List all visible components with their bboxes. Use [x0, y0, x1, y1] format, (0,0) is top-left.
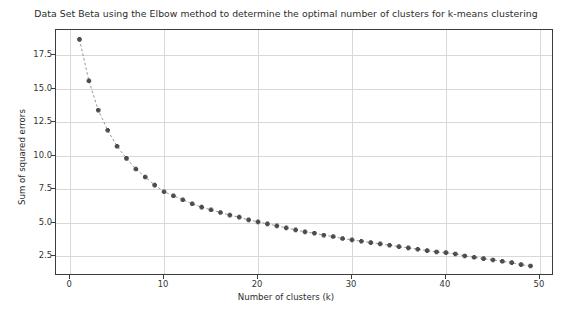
data-point-marker	[453, 252, 458, 257]
marker-glyph	[181, 197, 186, 202]
data-point-marker	[293, 228, 298, 233]
marker-glyph	[500, 259, 505, 264]
data-point-marker	[256, 220, 261, 225]
y-tick-label: 17.5	[0, 49, 52, 59]
data-point-marker	[444, 250, 449, 255]
data-point-marker	[397, 244, 402, 249]
x-tick-label: 20	[252, 279, 263, 289]
data-point-marker	[209, 208, 214, 213]
marker-glyph	[359, 239, 364, 244]
data-point-marker	[331, 234, 336, 239]
data-point-marker	[312, 231, 317, 236]
data-point-marker	[350, 238, 355, 243]
marker-glyph	[190, 202, 195, 207]
chart-title: Data Set Beta using the Elbow method to …	[0, 8, 572, 19]
data-point-marker	[519, 262, 524, 267]
marker-glyph	[434, 250, 439, 255]
data-point-marker	[509, 260, 514, 265]
data-point-marker	[321, 233, 326, 238]
marker-glyph	[246, 218, 251, 223]
data-point-marker	[105, 128, 110, 133]
marker-glyph	[350, 238, 355, 243]
data-point-marker	[415, 247, 420, 252]
x-axis-label: Number of clusters (k)	[0, 292, 572, 302]
data-point-marker	[462, 254, 467, 259]
marker-glyph	[237, 215, 242, 220]
marker-glyph	[321, 233, 326, 238]
chart-figure: Data Set Beta using the Elbow method to …	[0, 0, 572, 312]
marker-glyph	[425, 248, 430, 253]
y-tick-label: 2.5	[0, 250, 52, 260]
data-point-marker	[340, 236, 345, 241]
marker-glyph	[265, 222, 270, 227]
x-tick-label: 40	[440, 279, 451, 289]
data-point-marker	[359, 239, 364, 244]
marker-glyph	[284, 226, 289, 231]
marker-glyph	[228, 213, 233, 218]
data-point-marker	[275, 224, 280, 229]
marker-glyph	[209, 208, 214, 213]
data-point-marker	[406, 246, 411, 251]
data-point-marker	[181, 197, 186, 202]
data-point-marker	[481, 256, 486, 261]
data-point-marker	[425, 248, 430, 253]
marker-glyph	[397, 244, 402, 249]
data-point-marker	[434, 250, 439, 255]
marker-glyph	[462, 254, 467, 259]
data-point-marker	[246, 218, 251, 223]
marker-glyph	[171, 193, 176, 198]
marker-glyph	[87, 79, 92, 84]
marker-glyph	[472, 255, 477, 260]
data-point-marker	[378, 242, 383, 247]
marker-glyph	[415, 247, 420, 252]
marker-glyph	[199, 205, 204, 210]
data-point-marker	[218, 210, 223, 215]
data-point-marker	[190, 202, 195, 207]
data-point-marker	[265, 222, 270, 227]
data-point-marker	[228, 213, 233, 218]
marker-glyph	[444, 250, 449, 255]
data-point-marker	[472, 255, 477, 260]
marker-glyph	[331, 234, 336, 239]
marker-glyph	[453, 252, 458, 257]
plot-area	[55, 29, 553, 275]
data-point-marker	[237, 215, 242, 220]
x-tick-label: 30	[346, 279, 357, 289]
marker-glyph	[378, 242, 383, 247]
data-point-marker	[368, 240, 373, 245]
marker-glyph	[312, 231, 317, 236]
data-point-marker	[500, 259, 505, 264]
marker-glyph	[481, 256, 486, 261]
y-axis-label: Sum of squared errors	[17, 87, 27, 227]
series-layer	[56, 30, 552, 274]
marker-glyph	[387, 243, 392, 248]
marker-glyph	[528, 264, 533, 269]
data-point-marker	[528, 264, 533, 269]
data-point-marker	[87, 79, 92, 84]
marker-glyph	[340, 236, 345, 241]
data-point-marker	[284, 226, 289, 231]
marker-glyph	[509, 260, 514, 265]
x-tick-label: 0	[66, 279, 71, 289]
data-point-marker	[77, 37, 82, 42]
data-point-marker	[491, 258, 496, 263]
marker-glyph	[303, 230, 308, 235]
data-point-marker	[96, 108, 101, 113]
data-point-marker	[171, 193, 176, 198]
marker-glyph	[96, 108, 101, 113]
data-point-marker	[303, 230, 308, 235]
marker-glyph	[275, 224, 280, 229]
marker-glyph	[77, 37, 82, 42]
marker-glyph	[293, 228, 298, 233]
marker-glyph	[368, 240, 373, 245]
marker-glyph	[519, 262, 524, 267]
x-tick-label: 50	[534, 279, 545, 289]
x-tick-label: 10	[158, 279, 169, 289]
elbow-curve	[56, 30, 554, 276]
data-point-marker	[199, 205, 204, 210]
marker-glyph	[105, 128, 110, 133]
marker-glyph	[218, 210, 223, 215]
marker-glyph	[406, 246, 411, 251]
marker-glyph	[491, 258, 496, 263]
data-point-marker	[387, 243, 392, 248]
